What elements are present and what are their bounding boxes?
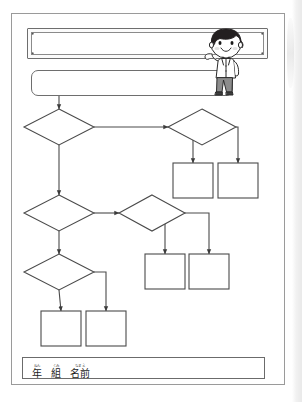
flow-node-b4[interactable]: [189, 254, 229, 289]
class-kanji: 組: [51, 369, 61, 379]
flowchart: [11, 13, 285, 385]
year-field: ねん 年: [32, 365, 42, 379]
flow-node-b2[interactable]: [218, 163, 258, 198]
flow-node-d3[interactable]: [24, 195, 94, 231]
name-field-group: ねん 年 くみ 組 なまえ 名前: [32, 359, 90, 379]
name-label-field: なまえ 名前: [70, 365, 90, 379]
flow-node-b6[interactable]: [86, 311, 126, 346]
flow-edge-d5-b5: [59, 290, 61, 311]
flow-node-d5[interactable]: [24, 254, 94, 290]
flow-node-d2[interactable]: [168, 109, 236, 145]
flow-node-b3[interactable]: [145, 254, 185, 289]
flow-edge-d4-b4: [185, 213, 209, 254]
flow-edge-d2-b2: [236, 127, 238, 163]
flow-edge-d5-b6: [94, 272, 106, 311]
flowchart-canvas: [11, 13, 285, 385]
year-kanji: 年: [32, 369, 42, 379]
flow-node-d4[interactable]: [119, 195, 185, 231]
flow-node-b5[interactable]: [41, 311, 81, 346]
page-edge-smudge: [287, 18, 294, 88]
name-kanji: 名前: [70, 369, 90, 379]
worksheet-page: ねん 年 くみ 組 なまえ 名前: [0, 0, 302, 402]
class-field: くみ 組: [51, 365, 61, 379]
name-footer-bar[interactable]: ねん 年 くみ 組 なまえ 名前: [22, 357, 265, 379]
student-name-input[interactable]: [127, 360, 258, 376]
flow-node-d1[interactable]: [24, 109, 94, 145]
flow-node-b1[interactable]: [173, 163, 213, 198]
